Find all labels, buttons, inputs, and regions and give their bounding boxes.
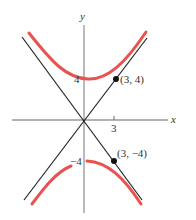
y-tick-label-neg4: −4 [70,155,82,167]
hyperbola-chart: y x 3 4 −4 (3, 4) (3, −4) [0,0,196,220]
point-3-4 [113,76,119,82]
point-label-lower: (3, −4) [117,147,147,160]
point-label-upper: (3, 4) [120,73,144,86]
y-tick-label-4: 4 [74,73,80,85]
x-axis-label: x [170,113,176,125]
x-tick-label-3: 3 [111,122,117,134]
y-axis-label: y [79,10,85,22]
asymptote-positive [24,38,147,200]
chart-canvas: y x 3 4 −4 (3, 4) (3, −4) [0,0,196,220]
hyperbola-upper-branch [29,32,146,79]
hyperbola-lower-branch-right [87,161,141,204]
hyperbola-lower-branch-left [32,166,71,204]
